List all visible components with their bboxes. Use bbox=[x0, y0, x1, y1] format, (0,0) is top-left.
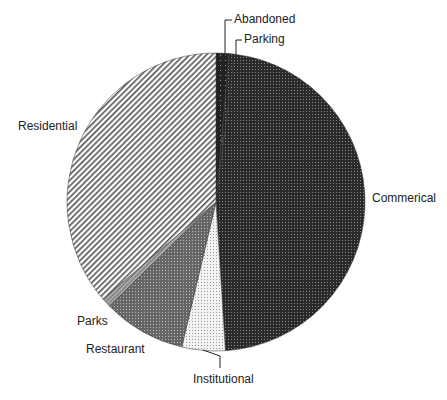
label-parking: Parking bbox=[244, 32, 285, 46]
label-parks: Parks bbox=[77, 314, 108, 328]
label-abandoned: Abandoned bbox=[234, 12, 295, 26]
label-restaurant: Restaurant bbox=[86, 342, 145, 356]
label-institutional: Institutional bbox=[193, 372, 254, 386]
institutional-leader bbox=[203, 350, 220, 368]
label-residential: Residential bbox=[18, 119, 77, 133]
slice-commerical bbox=[216, 54, 365, 351]
label-commercial: Commerical bbox=[372, 191, 436, 205]
